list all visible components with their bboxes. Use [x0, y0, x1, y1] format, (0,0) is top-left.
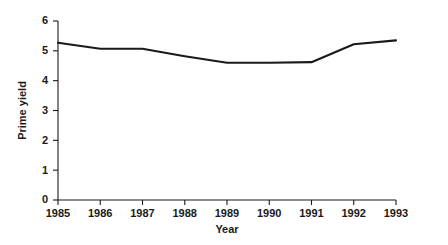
x-tick-label-1992: 1992	[342, 207, 366, 219]
x-tick-label-1987: 1987	[130, 207, 154, 219]
chart-canvas: 0123456 19851986198719881989199019911992…	[0, 0, 448, 245]
y-axis-title: Prime yield	[16, 81, 28, 140]
x-tick-labels: 198519861987198819891990199119921993	[46, 207, 408, 219]
y-tick-label-1: 1	[42, 164, 48, 176]
x-tick-label-1986: 1986	[88, 207, 112, 219]
y-tick-label-0: 0	[42, 193, 48, 205]
x-tick-label-1990: 1990	[257, 207, 281, 219]
x-tick-marks	[58, 200, 396, 205]
y-axis-group: 0123456	[42, 14, 58, 205]
y-tick-label-4: 4	[42, 74, 49, 86]
series-line-prime-yield	[58, 40, 396, 62]
y-tick-label-6: 6	[42, 14, 48, 26]
y-tick-label-3: 3	[42, 104, 48, 116]
x-tick-label-1991: 1991	[299, 207, 323, 219]
y-tick-label-5: 5	[42, 44, 48, 56]
x-axis-group: 198519861987198819891990199119921993	[46, 200, 408, 219]
y-tick-label-2: 2	[42, 134, 48, 146]
x-tick-label-1985: 1985	[46, 207, 70, 219]
line-chart-figure: 0123456 19851986198719881989199019911992…	[0, 0, 448, 245]
y-tick-labels: 0123456	[42, 14, 49, 205]
x-axis-title: Year	[215, 223, 239, 235]
x-tick-label-1989: 1989	[215, 207, 239, 219]
y-tick-marks	[53, 21, 58, 200]
x-tick-label-1993: 1993	[384, 207, 408, 219]
x-tick-label-1988: 1988	[173, 207, 197, 219]
